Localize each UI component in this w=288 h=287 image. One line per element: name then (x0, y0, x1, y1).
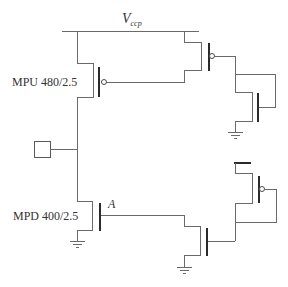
circuit-diagram (0, 0, 288, 287)
vccp-symbol: V (122, 11, 131, 26)
lower-right-pmos-feedback-wire (235, 189, 276, 222)
upper-right-nmos-drain-wire (235, 74, 252, 132)
mpu-gate-bubble-icon (102, 80, 107, 85)
upper-right-pmos-source-wire (144, 31, 201, 82)
mpu-pmos-transistor (77, 31, 144, 200)
input-pad (34, 141, 50, 157)
ground-icon (177, 267, 192, 273)
mpd-label: MPD 400/2.5 (13, 210, 78, 222)
vccp-label: Vccp (122, 13, 142, 27)
upper-right-nmos-feedback-wire (235, 74, 275, 107)
ground-icon (228, 132, 243, 138)
mpu-label: MPU 480/2.5 (12, 76, 77, 88)
mpu-source-wire (77, 31, 93, 200)
upper-right-pmos-output-wire (215, 56, 236, 74)
lower-right-nmos-transistor (177, 215, 235, 273)
mpd-nmos-transistor (70, 200, 184, 247)
ground-icon (70, 241, 85, 247)
lower-right-nmos-drain-wire (184, 215, 200, 267)
lower-right-pmos-source-wire (235, 163, 252, 241)
upper-right-pmos-gate-bubble-icon (210, 54, 215, 59)
lower-right-pmos-transistor (234, 163, 276, 241)
upper-right-nmos-transistor (228, 74, 275, 138)
node-a-label: A (108, 198, 115, 210)
mpd-drain-wire (77, 200, 92, 241)
lower-right-pmos-gate-bubble-icon (260, 187, 265, 192)
vccp-subscript: ccp (131, 19, 142, 28)
upper-right-pmos-transistor (144, 31, 235, 82)
